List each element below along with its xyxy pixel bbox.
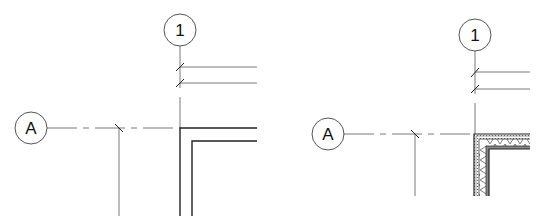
grid-label-a: A bbox=[322, 125, 334, 144]
wall-corner-hatched bbox=[474, 134, 530, 196]
grid-bubble-a[interactable]: A bbox=[15, 112, 47, 144]
grid-bubble-1[interactable]: 1 bbox=[459, 19, 491, 51]
grid-bubble-a[interactable]: A bbox=[312, 118, 344, 150]
grid-bubble-1[interactable]: 1 bbox=[164, 14, 196, 46]
plan-diagram: 1 A 1 bbox=[0, 0, 543, 224]
grid-label-a: A bbox=[25, 119, 37, 138]
wall-corner-simple bbox=[180, 128, 257, 216]
grid-label-1: 1 bbox=[175, 21, 184, 40]
right-panel: 1 A bbox=[312, 19, 530, 196]
grid-label-1: 1 bbox=[470, 26, 479, 45]
left-panel: 1 A bbox=[15, 14, 257, 216]
